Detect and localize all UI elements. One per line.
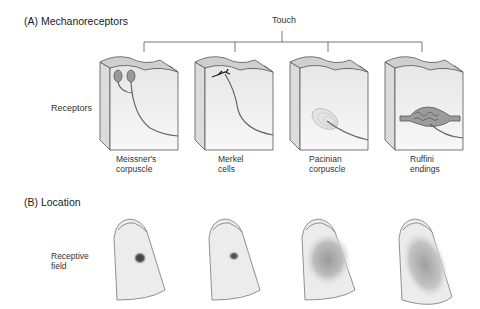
receptor-label-ruffini: Ruffiniendings (410, 154, 440, 174)
ruffini-block (385, 57, 463, 150)
receptor-label-meissner: Meissner'scorpuscle (116, 154, 156, 174)
panel-b-title: (B) Location (24, 196, 81, 208)
receptor-label-merkel: Merkelcells (218, 154, 244, 174)
receptor-label-pacinian: Paciniancorpuscle (309, 154, 345, 174)
pacinian-block (290, 57, 368, 150)
touch-bracket (144, 31, 422, 52)
finger-pacinian (302, 219, 355, 300)
receptive-field-label: Receptivefield (51, 251, 89, 271)
finger-merkel (209, 219, 260, 300)
merkel-block (195, 57, 273, 150)
finger-ruffini (393, 219, 457, 306)
meissner-block (100, 57, 178, 150)
finger-meissner (114, 219, 165, 300)
